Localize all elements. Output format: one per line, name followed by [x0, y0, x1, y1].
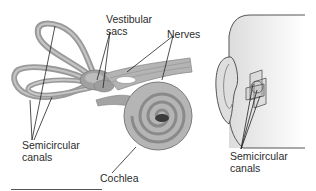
head-outline [229, 15, 305, 148]
label-semicircular-canals-right: Semicircular canals [230, 150, 288, 174]
footnote-rule [11, 189, 102, 190]
label-semicircular-canals-left: Semicircular canals [22, 139, 80, 163]
label-nerves: Nerves [167, 28, 200, 40]
label-vestibular-sacs: Vestibular sacs [106, 13, 152, 37]
label-cochlea: Cochlea [100, 172, 139, 184]
head-illustration [216, 15, 305, 148]
